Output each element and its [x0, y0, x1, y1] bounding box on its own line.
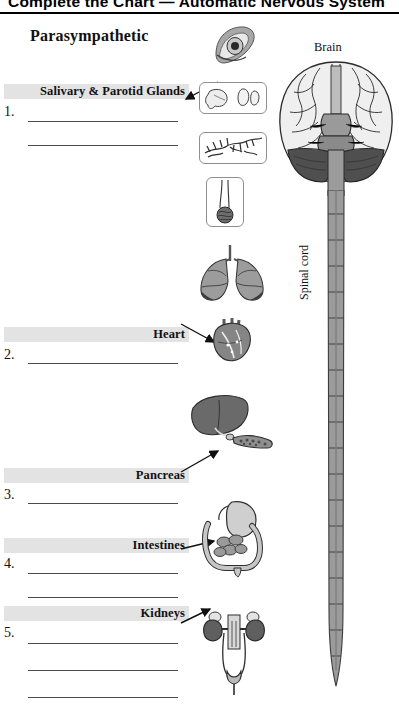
intestines-illustration: [194, 498, 274, 578]
answer-line[interactable]: [28, 503, 178, 504]
answer-line[interactable]: [28, 145, 178, 146]
heart-illustration: [206, 316, 260, 366]
organ-label-heart: Heart: [4, 327, 189, 342]
liver-pancreas-illustration: [189, 390, 275, 462]
answer-line[interactable]: [28, 573, 178, 574]
lungs-illustration: [196, 243, 268, 305]
spinal-cord-label: Spinal cord: [297, 245, 312, 300]
organ-label-salivary-parotid-glands: Salivary & Parotid Glands: [4, 84, 189, 99]
answer-line[interactable]: [28, 670, 178, 671]
page-title: Complete the Chart — Automatic Nervous S…: [8, 0, 385, 11]
answer-line[interactable]: [28, 363, 178, 364]
organ-label-text: Salivary & Parotid Glands: [40, 84, 189, 99]
eye-illustration: [212, 24, 258, 66]
salivary-glands-illustration: [199, 82, 267, 114]
header-divider: [0, 12, 399, 14]
kidneys-bladder-illustration: [198, 607, 270, 697]
blood-vessels-illustration: [199, 132, 267, 164]
answer-line[interactable]: [28, 597, 178, 598]
row-number-5: 5.: [4, 625, 15, 641]
answer-line[interactable]: [28, 121, 178, 122]
row-number-3: 3.: [4, 487, 15, 503]
organ-label-kidneys: Kidneys: [4, 606, 189, 621]
answer-line[interactable]: [28, 643, 178, 644]
organ-label-pancreas: Pancreas: [4, 468, 189, 483]
row-number-4: 4.: [4, 556, 15, 572]
brain-illustration: [276, 58, 396, 198]
spinal-cord-illustration: [320, 190, 352, 700]
answer-line[interactable]: [28, 697, 178, 698]
hair-follicle-illustration: [206, 177, 244, 227]
brain-label: Brain: [314, 40, 342, 55]
organ-label-intestines: Intestines: [4, 538, 189, 553]
row-number-2: 2.: [4, 347, 15, 363]
section-heading: Parasympathetic: [30, 27, 149, 45]
row-number-1: 1.: [4, 104, 15, 120]
